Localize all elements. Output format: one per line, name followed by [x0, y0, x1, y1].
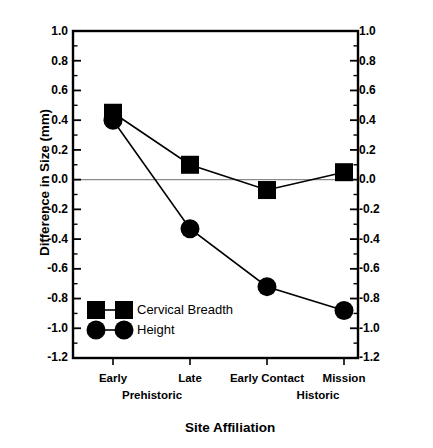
series-height	[104, 111, 354, 320]
data-point-square	[335, 163, 353, 181]
data-point-circle	[258, 277, 277, 296]
data-series-layer	[104, 104, 354, 320]
legend-marker-circle	[87, 321, 106, 340]
series-cervical-breadth	[104, 104, 353, 199]
data-point-circle	[335, 301, 354, 320]
legend-marker-square	[115, 301, 133, 319]
plot-area	[0, 0, 433, 448]
data-point-square	[181, 156, 199, 174]
data-point-square	[258, 181, 276, 199]
data-point-circle	[181, 219, 200, 238]
data-point-circle	[104, 111, 123, 130]
series-line	[113, 113, 344, 190]
legend-markers	[87, 301, 134, 340]
chart-figure: Difference in Size (mm) 1.0 0.8 0.6 0.4 …	[0, 0, 433, 448]
legend-marker-square	[87, 301, 105, 319]
series-line	[113, 120, 344, 310]
legend-marker-circle	[115, 321, 134, 340]
